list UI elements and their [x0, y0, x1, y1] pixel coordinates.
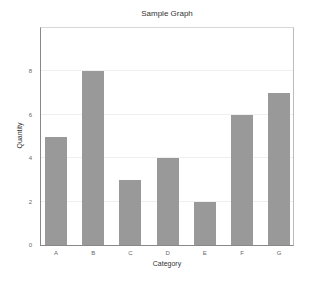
y-tick-label: 0	[20, 242, 32, 248]
gridline	[41, 114, 293, 115]
x-tick-label: B	[82, 250, 104, 256]
bar-d	[157, 158, 179, 245]
x-tick-label: F	[231, 250, 253, 256]
bar-a	[45, 137, 67, 246]
chart-title: Sample Graph	[40, 9, 294, 18]
plot-area	[40, 27, 294, 246]
y-tick-label: 6	[20, 112, 32, 118]
bar-c	[119, 180, 141, 245]
gridline	[41, 70, 293, 71]
x-tick-label: D	[157, 250, 179, 256]
bar-g	[268, 93, 290, 245]
x-tick-label: C	[119, 250, 141, 256]
bar-b	[82, 71, 104, 245]
x-tick-label: A	[45, 250, 67, 256]
y-tick-label: 2	[20, 199, 32, 205]
y-tick-label: 4	[20, 155, 32, 161]
y-tick-label: 8	[20, 68, 32, 74]
y-axis-label: Quantity	[16, 111, 23, 161]
bar-e	[194, 202, 216, 245]
x-tick-label: E	[194, 250, 216, 256]
x-tick-label: G	[268, 250, 290, 256]
bar-f	[231, 115, 253, 245]
x-axis-label: Category	[40, 260, 294, 267]
